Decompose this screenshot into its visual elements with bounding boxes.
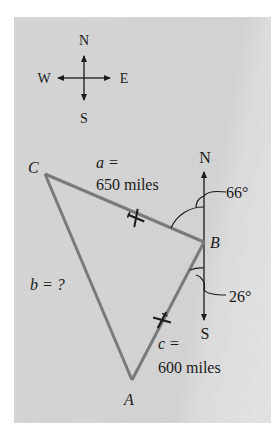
- angle-arc-26: [190, 268, 226, 295]
- vertex-a-label: A: [123, 391, 134, 408]
- triangle-diagram: N S W E N S 66° 26° C B A: [0, 0, 276, 436]
- compass-west-label: W: [37, 71, 51, 86]
- compass-rose: N S W E: [37, 33, 128, 126]
- axis-north-label: N: [199, 149, 211, 166]
- angle-arc-66: [171, 192, 226, 229]
- side-a-var-label: a =: [96, 154, 119, 171]
- side-b-label: b = ?: [30, 276, 65, 293]
- triangle: [45, 174, 204, 380]
- compass-south-label: S: [80, 111, 88, 126]
- side-c-value-label: 600 miles: [158, 359, 221, 376]
- airplane-icon-side-c: [150, 308, 174, 332]
- side-a-value-label: 650 miles: [96, 176, 159, 193]
- vertex-c-label: C: [28, 159, 39, 176]
- compass-north-label: N: [79, 33, 89, 48]
- axis-south-label: S: [201, 325, 210, 342]
- angle-66-label: 66°: [226, 184, 248, 201]
- vertex-b-label: B: [210, 234, 220, 251]
- side-c-var-label: c =: [158, 335, 180, 352]
- compass-east-label: E: [120, 71, 129, 86]
- angle-26-label: 26°: [229, 288, 251, 305]
